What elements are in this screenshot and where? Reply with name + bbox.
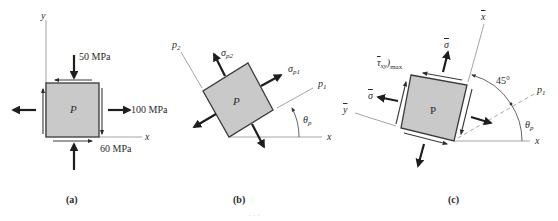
sigma-p1-arrow-left xyxy=(194,114,216,127)
point-label: P xyxy=(430,104,436,116)
p1-axis xyxy=(277,88,313,108)
point-label: P xyxy=(232,95,240,107)
caption-c: (c) xyxy=(448,194,459,206)
caption-b: (b) xyxy=(233,194,245,206)
panel-b: x p1 p2 P σp1 σp2 θp (b) xyxy=(171,39,332,206)
sigma-p1-label: σp1 xyxy=(288,63,300,76)
sigma-avg-label-left: σ xyxy=(368,90,374,101)
y-bar-axis xyxy=(355,113,396,126)
sigma-p2-label: σp2 xyxy=(221,47,233,60)
x-axis-label: x xyxy=(326,131,332,142)
sigma-y-value: 50 MPa xyxy=(79,51,111,62)
panel-a: y x P 50 MPa 100 MPa 60 MPa (a) xyxy=(13,10,168,206)
sigma-avg-arrow-top xyxy=(443,52,448,72)
caption-a: (a) xyxy=(66,194,78,206)
theta-p-arc xyxy=(511,104,522,141)
y-bar-axis-label: y xyxy=(342,104,348,115)
tau-max-label: τxy)max xyxy=(377,57,403,71)
theta-p-arc xyxy=(292,108,299,137)
p1-axis-label: p1 xyxy=(536,84,546,97)
theta-p-label: θp xyxy=(303,114,312,127)
x-bar-axis xyxy=(468,24,484,82)
arc-junction-dot xyxy=(510,103,513,106)
sigma-p2-arrow-bottom xyxy=(252,124,264,147)
x-axis-label: x xyxy=(144,131,150,142)
y-axis-label: y xyxy=(40,10,46,21)
sigma-avg-arrow-right xyxy=(471,117,491,123)
figure-footer-caption: · · · xyxy=(248,211,260,220)
sigma-avg-arrow-bottom xyxy=(418,144,424,166)
point-label: P xyxy=(69,103,77,115)
stress-transformation-figure: y x P 50 MPa 100 MPa 60 MPa (a) x p1 p2 … xyxy=(0,0,558,221)
sigma-avg-arrow-left xyxy=(378,97,398,101)
angle-45-label: 45° xyxy=(496,75,510,86)
theta-p-label: θp xyxy=(525,119,534,132)
p1-axis-label: p1 xyxy=(317,78,327,91)
p2-axis-label: p2 xyxy=(171,39,181,52)
panel-c: x x y p1 P σ σ τxy)max 45° θp (c) xyxy=(342,11,546,206)
p2-axis xyxy=(181,52,202,88)
sigma-avg-label-top: σ xyxy=(444,39,450,50)
x-axis-label: x xyxy=(534,135,540,146)
sigma-p1-arrow-right xyxy=(261,75,281,86)
x-bar-axis-label: x xyxy=(480,11,486,22)
tau-xy-value: 60 MPa xyxy=(100,143,132,154)
sigma-x-value: 100 MPa xyxy=(131,104,168,115)
